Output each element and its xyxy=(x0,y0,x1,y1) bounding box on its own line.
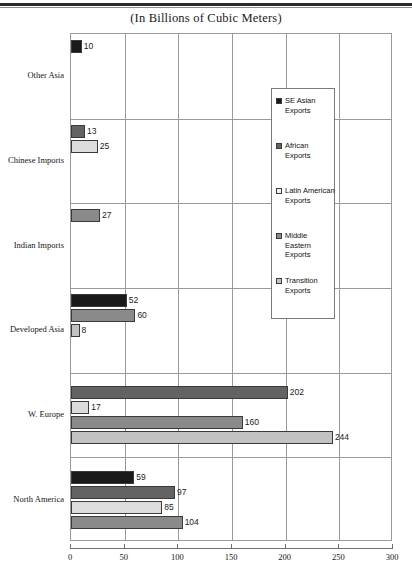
x-tick-label-200: 200 xyxy=(270,552,300,562)
legend-swatch-icon xyxy=(276,233,282,239)
bar xyxy=(71,40,82,53)
bar-value-label: 202 xyxy=(290,388,304,397)
category-label-chinese-imports: Chinese Imports xyxy=(0,155,64,165)
bar xyxy=(71,209,100,222)
category-label-other-asia: Other Asia xyxy=(0,70,64,80)
category-label-developed-asia: Developed Asia xyxy=(0,324,64,334)
x-tick-label-250: 250 xyxy=(323,552,353,562)
bar-value-label: 244 xyxy=(335,433,349,442)
bar xyxy=(71,516,183,529)
legend-swatch-icon xyxy=(276,278,282,284)
bar xyxy=(71,125,85,138)
row-separator-4 xyxy=(71,373,391,374)
bar-value-label: 59 xyxy=(136,473,145,482)
bar xyxy=(71,471,134,484)
bar xyxy=(71,309,135,322)
row-separator-1 xyxy=(71,119,391,120)
row-separator-3 xyxy=(71,288,391,289)
x-tick-100 xyxy=(177,544,178,549)
x-tick-250 xyxy=(338,544,339,549)
x-tick-300 xyxy=(392,544,393,549)
bar-value-label: 52 xyxy=(129,296,138,305)
row-separator-5 xyxy=(71,457,391,458)
bar-value-label: 27 xyxy=(102,211,111,220)
category-label-north-america: North America xyxy=(0,494,64,504)
x-tick-label-50: 50 xyxy=(109,552,139,562)
bar-value-label: 60 xyxy=(137,311,146,320)
bar-value-label: 160 xyxy=(245,418,259,427)
category-label-indian-imports: Indian Imports xyxy=(0,240,64,250)
x-tick-50 xyxy=(124,544,125,549)
x-tick-label-150: 150 xyxy=(216,552,246,562)
bar-value-label: 17 xyxy=(91,403,100,412)
x-tick-150 xyxy=(231,544,232,549)
legend-item-label: Middle Eastern Exports xyxy=(285,231,335,260)
legend-item-label: African Exports xyxy=(285,141,335,160)
gridline-x-100 xyxy=(178,34,179,540)
legend-swatch-icon xyxy=(276,188,282,194)
chart-title: (In Billions of Cubic Meters) xyxy=(0,11,412,26)
legend-swatch-icon xyxy=(276,143,282,149)
bar-value-label: 13 xyxy=(87,127,96,136)
gridline-x-50 xyxy=(125,34,126,540)
bar xyxy=(71,501,162,514)
bar-value-label: 25 xyxy=(100,142,109,151)
bar-value-label: 97 xyxy=(177,488,186,497)
bar xyxy=(71,486,175,499)
bar-value-label: 10 xyxy=(84,42,93,51)
plot-area xyxy=(70,33,392,541)
x-tick-label-0: 0 xyxy=(55,552,85,562)
bar xyxy=(71,294,127,307)
bar xyxy=(71,401,89,414)
row-separator-2 xyxy=(71,203,391,204)
chart-legend: SE Asian ExportsAfrican ExportsLatin Ame… xyxy=(271,88,335,319)
x-tick-0 xyxy=(70,544,71,549)
bar xyxy=(71,324,80,337)
category-label-w-europe: W. Europe xyxy=(0,409,64,419)
x-tick-label-300: 300 xyxy=(377,552,407,562)
gridline-x-150 xyxy=(232,34,233,540)
legend-item-label: SE Asian Exports xyxy=(285,96,335,115)
header-rule-thick xyxy=(0,3,412,6)
bar-value-label: 85 xyxy=(164,503,173,512)
bar-value-label: 8 xyxy=(82,326,87,335)
legend-item-label: Latin American Exports xyxy=(285,186,335,205)
bar xyxy=(71,140,98,153)
bar-value-label: 104 xyxy=(185,518,199,527)
x-tick-label-100: 100 xyxy=(162,552,192,562)
bar xyxy=(71,431,333,444)
legend-swatch-icon xyxy=(276,98,282,104)
header-rule-thin xyxy=(0,7,412,8)
bar xyxy=(71,416,243,429)
x-tick-200 xyxy=(285,544,286,549)
gridline-x-250 xyxy=(339,34,340,540)
legend-item-label: Transition Exports xyxy=(285,276,335,295)
bar xyxy=(71,386,288,399)
